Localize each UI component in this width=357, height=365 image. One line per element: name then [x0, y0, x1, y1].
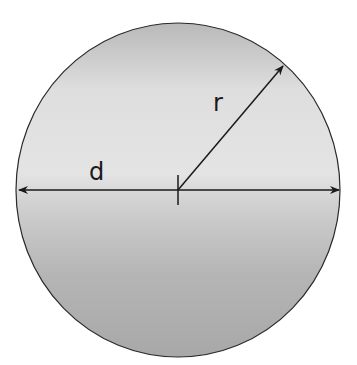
diameter-label: d: [89, 158, 104, 186]
radius-label: r: [213, 89, 223, 117]
circle-diagram: r d: [0, 0, 357, 365]
